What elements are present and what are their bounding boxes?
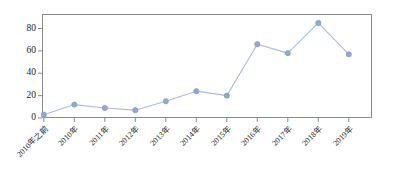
line-chart: 020406080 2010年之前2010年2011年2012年2013年201… bbox=[0, 0, 396, 170]
x-axis: 2010年之前2010年2011年2012年2013年2014年2015年201… bbox=[0, 0, 396, 170]
